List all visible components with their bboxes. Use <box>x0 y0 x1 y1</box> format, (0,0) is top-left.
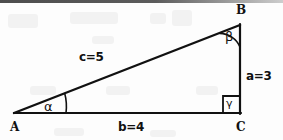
angle-arc-alpha <box>65 93 67 113</box>
vertex-label-c: C <box>236 121 246 133</box>
figure-canvas: A B C a=3 b=4 c=5 α β γ <box>0 0 283 140</box>
side-label-b: b=4 <box>118 121 144 133</box>
side-label-c: c=5 <box>79 51 104 63</box>
vertex-label-a: A <box>10 121 19 133</box>
vertex-label-b: B <box>236 4 246 16</box>
side-label-a: a=3 <box>246 70 272 82</box>
angle-label-alpha: α <box>44 100 53 113</box>
triangle-drawing <box>0 0 283 140</box>
angle-label-gamma: γ <box>226 98 233 109</box>
angle-label-beta: β <box>225 30 233 43</box>
